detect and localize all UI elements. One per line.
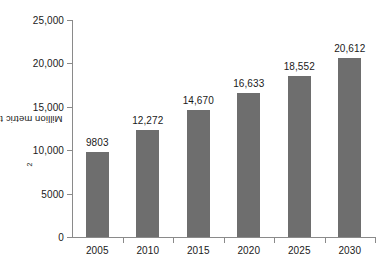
bar [338, 58, 361, 237]
x-axis-tick-label: 2030 [320, 245, 380, 256]
bar [187, 110, 210, 237]
bar [86, 152, 109, 237]
bar-value-label: 16,633 [219, 78, 279, 89]
x-axis-tick [325, 238, 326, 243]
y-axis-tick [67, 63, 72, 64]
x-axis-tick [123, 238, 124, 243]
y-axis-title: Million metric tons CO2 [10, 0, 32, 237]
y-axis-tick-label: 10,000 [33, 145, 64, 156]
y-axis-tick [67, 237, 72, 238]
bar [288, 76, 311, 237]
y-axis-tick [67, 150, 72, 151]
x-axis-tick [274, 238, 275, 243]
y-axis-tick-label: 20,000 [33, 58, 64, 69]
bar-value-label: 9803 [67, 137, 127, 148]
bar [237, 93, 260, 237]
bar-value-label: 14,670 [168, 95, 228, 106]
bar-value-label: 12,272 [118, 115, 178, 126]
y-axis-tick [67, 107, 72, 108]
y-axis-tick [67, 20, 72, 21]
bar [136, 130, 159, 237]
y-axis-line [72, 20, 73, 238]
y-axis-tick-label: 0 [58, 232, 64, 243]
x-axis-tick [224, 238, 225, 243]
y-axis-tick-label: 5000 [41, 188, 64, 199]
x-axis-tick [173, 238, 174, 243]
y-axis-tick-label: 25,000 [33, 15, 64, 26]
x-axis-tick [375, 238, 376, 243]
bar-value-label: 20,612 [320, 43, 380, 54]
y-axis-tick-label: 15,000 [33, 101, 64, 112]
y-axis-tick [67, 194, 72, 195]
bar-value-label: 18,552 [269, 61, 329, 72]
y-axis-title-subscript: 2 [26, 162, 33, 166]
y-axis-title-text: Million metric tons CO [0, 113, 63, 124]
bar-chart: Million metric tons CO2 0500010,00015,00… [0, 0, 392, 262]
